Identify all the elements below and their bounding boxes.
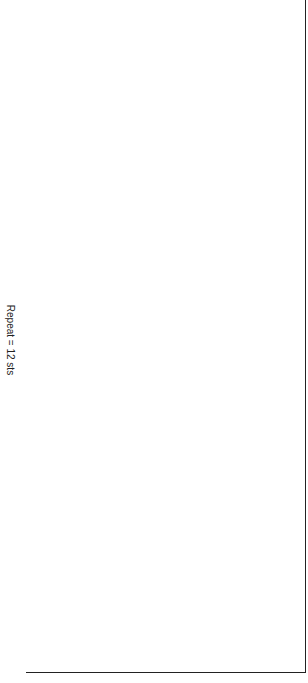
repeat-label: Repeat = 12 sts xyxy=(2,298,18,382)
knitting-chart-grid xyxy=(26,0,306,673)
row-number-labels xyxy=(26,674,306,683)
